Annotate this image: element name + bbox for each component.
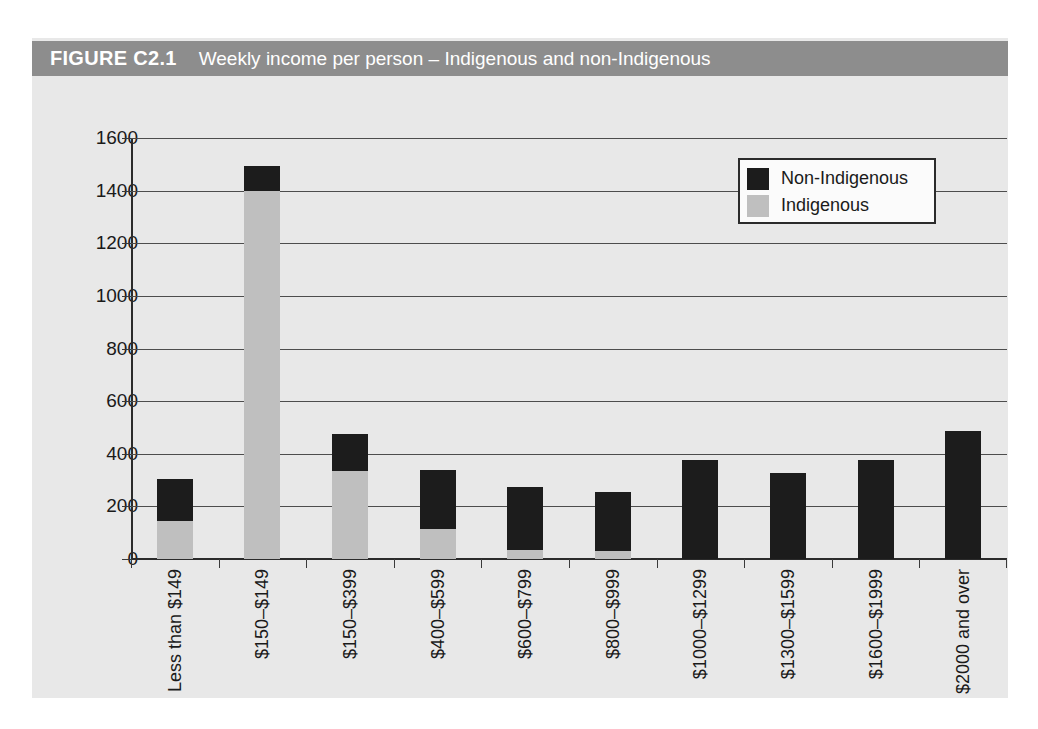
legend-item-non-indigenous: Non-Indigenous bbox=[747, 165, 927, 192]
bar-group bbox=[595, 138, 631, 559]
x-tick-mark bbox=[481, 559, 482, 568]
legend-label-non-indigenous: Non-Indigenous bbox=[781, 168, 908, 189]
bar-segment bbox=[332, 471, 368, 559]
bar-group bbox=[420, 138, 456, 559]
y-tick-mark bbox=[122, 296, 131, 297]
x-tick-mark bbox=[832, 559, 833, 568]
figure-page: FIGURE C2.1 Weekly income per person – I… bbox=[0, 0, 1038, 729]
x-tick-mark bbox=[219, 559, 220, 568]
bar-segment bbox=[332, 434, 368, 471]
y-tick-mark bbox=[122, 559, 131, 560]
figure-caption: Weekly income per person – Indigenous an… bbox=[199, 48, 711, 70]
bar-segment bbox=[945, 431, 981, 559]
y-tick-mark bbox=[122, 454, 131, 455]
y-tick-mark bbox=[122, 191, 131, 192]
bar-segment bbox=[507, 487, 543, 550]
x-tick-mark bbox=[744, 559, 745, 568]
x-tick-label: $150–$399 bbox=[340, 569, 361, 659]
bar-segment bbox=[770, 473, 806, 559]
bar-segment bbox=[507, 550, 543, 559]
legend-item-indigenous: Indigenous bbox=[747, 192, 927, 219]
bar-group bbox=[682, 138, 718, 559]
x-tick-mark bbox=[1006, 559, 1007, 568]
x-tick-label: $600–$799 bbox=[515, 569, 536, 659]
x-tick-mark bbox=[131, 559, 132, 568]
x-tick-label: $1000–$1299 bbox=[690, 569, 711, 679]
bar-group bbox=[945, 138, 981, 559]
x-tick-mark bbox=[657, 559, 658, 568]
y-tick-mark bbox=[122, 506, 131, 507]
figure-number: FIGURE C2.1 bbox=[50, 47, 177, 70]
x-tick-mark bbox=[306, 559, 307, 568]
bar-group bbox=[244, 138, 280, 559]
y-tick-mark bbox=[122, 349, 131, 350]
y-tick-mark bbox=[122, 401, 131, 402]
y-axis-labels: 02004006008001000120014001600 bbox=[62, 76, 138, 698]
bar-segment bbox=[157, 521, 193, 559]
y-tick-mark bbox=[122, 138, 131, 139]
bar-segment bbox=[420, 470, 456, 529]
legend-label-indigenous: Indigenous bbox=[781, 195, 869, 216]
chart-plot-wrapper: 02004006008001000120014001600 Less than … bbox=[32, 76, 1008, 698]
y-tick-mark bbox=[122, 243, 131, 244]
x-tick-label: $1600–$1999 bbox=[866, 569, 887, 679]
x-tick-label: $2000 and over bbox=[953, 569, 974, 694]
bar-group bbox=[332, 138, 368, 559]
x-tick-mark bbox=[919, 559, 920, 568]
x-tick-label: $1300–$1599 bbox=[778, 569, 799, 679]
x-tick-label: $800–$999 bbox=[603, 569, 624, 659]
bar-segment bbox=[858, 460, 894, 559]
x-tick-mark bbox=[394, 559, 395, 568]
x-axis-labels: Less than $149$150–$149$150–$399$400–$59… bbox=[131, 569, 1007, 695]
x-tick-mark bbox=[569, 559, 570, 568]
bar-segment bbox=[420, 529, 456, 559]
x-tick-label: $400–$599 bbox=[428, 569, 449, 659]
bar-group bbox=[507, 138, 543, 559]
bar-segment bbox=[244, 191, 280, 559]
figure-card: FIGURE C2.1 Weekly income per person – I… bbox=[32, 38, 1008, 698]
bar-segment bbox=[244, 166, 280, 191]
bar-segment bbox=[595, 551, 631, 559]
figure-title-bar: FIGURE C2.1 Weekly income per person – I… bbox=[32, 41, 1008, 76]
bar-segment bbox=[595, 492, 631, 551]
x-tick-label: $150–$149 bbox=[252, 569, 273, 659]
legend-swatch-non-indigenous bbox=[747, 168, 769, 190]
bar-segment bbox=[157, 479, 193, 521]
legend-swatch-indigenous bbox=[747, 195, 769, 217]
chart-legend: Non-Indigenous Indigenous bbox=[738, 158, 936, 224]
bar-group bbox=[157, 138, 193, 559]
x-tick-label: Less than $149 bbox=[165, 569, 186, 692]
bar-segment bbox=[682, 460, 718, 559]
